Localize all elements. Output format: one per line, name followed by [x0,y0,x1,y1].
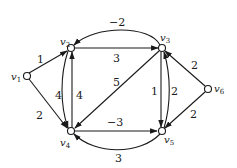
graph-diagram: 1 2 −2 3 4 4 5 1 2 −3 3 2 2 v1 v2 v3 v4 … [0,0,237,168]
weight-v6-v5: 2 [190,108,197,121]
label-v3: v3 [160,32,170,45]
node-labels: v1 v2 v3 v4 v5 v6 [11,32,225,150]
label-v5: v5 [164,134,174,147]
weight-v3-v5: 1 [151,85,158,98]
label-v1: v1 [11,71,21,84]
edge-v6-v3 [165,51,205,86]
edge-v2-v4 [62,51,68,128]
label-v4: v4 [60,137,71,150]
label-v2: v2 [60,36,70,49]
weight-v4-v5: −3 [107,116,123,129]
edge-v1-v4 [29,79,67,128]
weight-v3-v2: −2 [109,16,125,29]
weight-v2-v4: 4 [55,89,62,102]
weight-v1-v2: 1 [37,53,44,66]
weight-v2-v3: 3 [113,52,120,65]
node-v3 [159,45,166,52]
label-v6: v6 [214,83,225,96]
edge-v3-v2 [74,30,160,45]
edge-v1-v2 [29,51,67,73]
edge-v5-v3 [164,52,169,128]
weight-v5-v3: 2 [171,85,178,98]
weight-v4-v2: 4 [76,89,83,102]
node-v4 [68,128,75,135]
node-v1 [24,73,31,80]
weight-v1-v4: 2 [36,109,43,122]
weight-v3-v4: 5 [113,76,120,89]
weight-v6-v3: 2 [191,59,198,72]
weight-v5-v4: 3 [115,152,122,165]
node-v6 [205,86,212,93]
edge-v5-v4 [74,134,160,150]
